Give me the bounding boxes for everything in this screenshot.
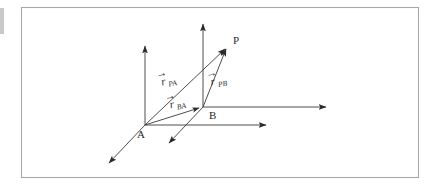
figure-border bbox=[22, 8, 419, 178]
point-label-p: P bbox=[233, 34, 239, 46]
point-label-b: B bbox=[209, 109, 216, 121]
figure-container: A B P → r PA → r PB → r BA bbox=[0, 0, 432, 193]
vector-diagram-canvas: A B P → r PA → r PB → r BA bbox=[0, 0, 432, 193]
point-label-a: A bbox=[137, 128, 145, 140]
left-edge-tick-icon bbox=[0, 8, 4, 34]
vector-subscript-pb: PB bbox=[216, 78, 228, 89]
